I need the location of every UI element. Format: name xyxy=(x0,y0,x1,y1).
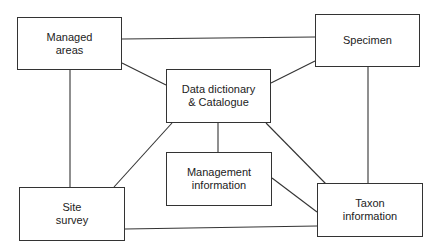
node-managed-areas: Managed areas xyxy=(17,17,122,70)
node-site-survey: Site survey xyxy=(19,187,125,241)
edge-managed-areas-data-dictionary xyxy=(122,63,166,85)
edge-site-survey-taxon-information xyxy=(125,226,317,229)
edge-management-information-taxon-information xyxy=(272,178,317,212)
edge-managed-areas-specimen xyxy=(122,37,315,39)
node-label: Management information xyxy=(187,166,251,192)
node-label: Taxon information xyxy=(343,197,397,223)
node-label: Managed areas xyxy=(47,31,93,57)
edge-data-dictionary-site-survey xyxy=(114,123,172,187)
node-taxon-information: Taxon information xyxy=(317,183,423,237)
node-label: Specimen xyxy=(343,34,392,47)
node-label: Site survey xyxy=(56,201,88,227)
node-data-dictionary: Data dictionary & Catalogue xyxy=(166,69,271,123)
node-specimen: Specimen xyxy=(315,14,420,67)
node-management-information: Management information xyxy=(166,152,272,206)
edge-data-dictionary-taxon-information xyxy=(266,123,326,184)
edge-specimen-data-dictionary xyxy=(271,61,315,83)
node-label: Data dictionary & Catalogue xyxy=(182,83,255,109)
